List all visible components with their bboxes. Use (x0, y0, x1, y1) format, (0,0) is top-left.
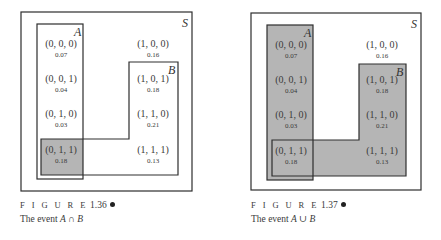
venn-diagram-intersection: S A B (0, 0, 0) 0.07 (0, 0, 1) 0.04 (0, … (0, 0, 220, 200)
bullet-icon (110, 202, 115, 207)
figure-label: F I G U R E (251, 200, 319, 210)
event-expression: A ∩ B (60, 214, 83, 224)
figure-label: F I G U R E (20, 200, 88, 210)
outcome-tuple: (0, 0, 1) (275, 74, 307, 86)
outcome-tuple: (1, 0, 1) (137, 73, 169, 85)
outcome-prob: 0.07 (55, 51, 68, 59)
figure-caption: F I G U R E 1.36 The event A ∩ B (20, 198, 115, 226)
outcome-tuple: (0, 1, 1) (45, 144, 77, 156)
outcome-tuple: (1, 0, 1) (366, 74, 398, 86)
outcome-prob: 0.18 (376, 87, 389, 95)
outcome-prob: 0.16 (147, 51, 160, 59)
figure-number: 1.36 (90, 200, 107, 210)
outcome-prob: 0.21 (376, 122, 389, 130)
bullet-icon (341, 202, 346, 207)
event-expression: A ∪ B (291, 214, 315, 224)
outcome-prob: 0.03 (55, 121, 68, 129)
outcome-tuple: (1, 0, 0) (366, 39, 398, 51)
outcome-prob: 0.07 (285, 52, 298, 60)
outcome-tuple: (0, 1, 1) (275, 145, 307, 157)
caption-text: The event (251, 214, 289, 224)
set-b-label: B (168, 63, 176, 77)
outcome-prob: 0.13 (376, 158, 389, 166)
outcome-tuple: (1, 1, 0) (137, 108, 169, 120)
outcome-tuple: (1, 1, 0) (366, 109, 398, 121)
outcome-tuple: (0, 0, 1) (45, 73, 77, 85)
outcome-tuple: (1, 1, 1) (366, 145, 398, 157)
outcome-tuple: (1, 1, 1) (137, 144, 169, 156)
sample-space-label: S (182, 16, 188, 30)
figure-union: S A B (0, 0, 0) 0.07 (0, 0, 1) 0.04 (0, … (230, 0, 441, 240)
outcome-tuple: (0, 1, 0) (275, 109, 307, 121)
outcome-tuple: (0, 1, 0) (45, 108, 77, 120)
figure-intersection: S A B (0, 0, 0) 0.07 (0, 0, 1) 0.04 (0, … (0, 0, 220, 240)
outcome-prob: 0.03 (285, 122, 298, 130)
outcome-tuple: (0, 0, 0) (275, 39, 307, 51)
outcome-prob: 0.13 (147, 157, 160, 165)
set-a-label: A (73, 25, 82, 39)
figure-caption: F I G U R E 1.37 The event A ∪ B (251, 198, 346, 226)
sample-space-label: S (411, 17, 417, 31)
outcome-prob: 0.16 (376, 52, 389, 60)
outcome-prob: 0.04 (55, 86, 68, 94)
outcome-tuple: (0, 0, 0) (45, 38, 77, 50)
outcome-tuple: (1, 0, 0) (137, 38, 169, 50)
outcome-prob: 0.18 (55, 157, 68, 165)
outcome-prob: 0.18 (285, 158, 298, 166)
caption-text: The event (20, 214, 58, 224)
set-a-label: A (303, 26, 312, 40)
outcome-prob: 0.04 (285, 87, 298, 95)
venn-diagram-union: S A B (0, 0, 0) 0.07 (0, 0, 1) 0.04 (0, … (230, 0, 441, 200)
outcome-prob: 0.18 (147, 86, 160, 94)
outcome-prob: 0.21 (147, 121, 160, 129)
figure-number: 1.37 (321, 200, 338, 210)
